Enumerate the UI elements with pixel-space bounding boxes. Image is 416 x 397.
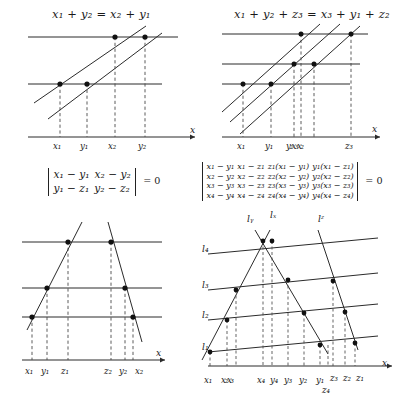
top-left-x-axis-label: x (190, 125, 195, 135)
intersection-dot (318, 343, 323, 348)
tick-label: x₄ (257, 376, 265, 385)
line-label-lx: lₓ (270, 210, 276, 220)
intersection-dot (29, 314, 34, 319)
intersection-dot (57, 81, 62, 86)
tick-label-overlapping-cluster: y₂x₃x₂ (286, 142, 302, 151)
tick-label: y₃ (284, 376, 292, 385)
tick-label: x₁ (53, 142, 61, 151)
intersection-dot (130, 314, 135, 319)
bottom-left-diagram (0, 210, 208, 375)
determinant-cell: x₂ − y₂ (92, 168, 133, 182)
intersection-dot (122, 285, 127, 290)
determinant-2x2: x₁ − y₁ x₂ − y₂ y₁ − z₁ y₂ − z₂ = 0 (46, 168, 160, 196)
tick-label: y₂ (299, 376, 307, 385)
tick-label: z₄ (322, 386, 330, 395)
intersection-dot (225, 318, 230, 323)
line-label-lz: lᶻ (318, 214, 324, 224)
tick-label: z₂ (104, 367, 112, 376)
line-label-l1: l₁ (202, 342, 209, 352)
intersection-dot (299, 32, 304, 37)
intersection-dot (261, 239, 266, 244)
tick-label: z₃ (330, 374, 338, 383)
slanted-line-l2 (208, 304, 378, 320)
figure-canvas: x₁ + y₂ = x₂ + y₁ (0, 0, 416, 397)
tick-label: y₂ (138, 142, 146, 151)
top-left-tick-labels: x₁ y₁ x₂ y₂ (0, 142, 208, 156)
x-axis-arrow (186, 135, 195, 140)
tick-label: x₁ (25, 367, 33, 376)
intersection-dot (312, 62, 317, 67)
bottom-left-x-axis-label: x (156, 348, 161, 358)
dropline-group (60, 37, 145, 137)
tick-label: z₁ (61, 367, 69, 376)
determinant-right-bar (357, 162, 358, 201)
intersection-dot (142, 34, 147, 39)
intersection-dot (302, 311, 307, 316)
top-right-equation-title: x₁ + y₂ + z₃ = x₃ + y₁ + z₂ (234, 8, 390, 21)
intersection-dot (234, 288, 239, 293)
x-axis-arrow (370, 135, 380, 140)
intersection-dot (269, 82, 274, 87)
determinant-left-bar (202, 162, 203, 201)
intersection-dot (343, 310, 348, 315)
transversal-line-2 (230, 24, 340, 122)
intersection-dot (270, 239, 275, 244)
transversal-line-lx (255, 230, 328, 354)
intersection-dot (353, 341, 358, 346)
tick-label: y₁ (265, 142, 273, 151)
tick-label: z₃ (345, 142, 353, 151)
intersection-dot (292, 62, 297, 67)
tick-label: x₂ (108, 142, 116, 151)
intersection-dot-group (208, 239, 358, 355)
tick-label: y₄ (270, 376, 278, 385)
determinant-row: x₁ − y₁ x₂ − y₂ (51, 168, 133, 182)
tick-label: x₂x₃ (221, 376, 233, 385)
intersection-dot (349, 32, 354, 37)
bottom-right-diagram (200, 208, 416, 373)
slanted-line-l4 (208, 238, 378, 254)
determinant-4x4-rhs: = 0 (363, 176, 382, 187)
line-label-ly: lᵧ (247, 214, 253, 224)
determinant-cell: x₁ − y₁ (51, 168, 92, 182)
panel-top-right: x₁ + y₂ + z₃ = x₃ + y₁ + z₂ (208, 0, 416, 158)
intersection-dot-group (57, 34, 147, 86)
tick-label: z₂ (343, 374, 351, 383)
slanted-line-l1 (208, 336, 378, 352)
tick-label: x₂ (135, 367, 143, 376)
intersection-dot (331, 279, 336, 284)
dropline-group (32, 242, 133, 360)
intersection-dot (112, 34, 117, 39)
intersection-dot (286, 278, 291, 283)
line-label-l3: l₃ (202, 280, 209, 290)
top-left-equation-title: x₁ + y₂ = x₂ + y₁ (52, 8, 151, 21)
determinant-4x4-body: x₁ − y₁ x₁ − z₁ z₁(x₁ − y₁) y₁(x₁ − z₁) … (200, 162, 360, 201)
tick-label: y₁ (80, 142, 88, 151)
determinant-right-bar (135, 168, 136, 196)
determinant-row: y₁ − z₁ y₂ − z₂ (51, 182, 133, 196)
bottom-left-tick-labels: x₁ y₁ z₁ z₂ y₂ x₂ (0, 367, 208, 381)
intersection-dot (44, 285, 49, 290)
line-label-l2: l₂ (202, 310, 209, 320)
determinant-cell: y₂ − z₂ (92, 182, 133, 196)
top-left-diagram (0, 22, 208, 152)
tick-label: x₁ (237, 142, 245, 151)
determinant-left-bar (48, 168, 49, 196)
intersection-dot (108, 239, 113, 244)
intersection-dot (84, 81, 89, 86)
panel-top-left: x₁ + y₂ = x₂ + y₁ (0, 0, 208, 158)
determinant-cell: y₁ − z₁ (51, 182, 92, 196)
intersection-dot-group (29, 239, 135, 319)
top-right-x-axis-label: x (372, 124, 377, 134)
intersection-dot (241, 82, 246, 87)
tick-label: y₁ (41, 367, 49, 376)
transversal-ascending (27, 222, 82, 330)
determinant-2x2-body: x₁ − y₁ x₂ − y₂ y₁ − z₁ y₂ − z₂ (46, 168, 138, 196)
intersection-dot-group (241, 32, 354, 87)
transversal-line-1 (34, 26, 146, 103)
panel-bottom-right: l₄ l₃ l₂ l₁ lᵧ lₓ lᶻ x x₁ x₂x₃ x₄ y₄ y₃ … (200, 200, 416, 397)
x-axis-arrow (155, 358, 165, 363)
tick-label: z₁ (356, 374, 364, 383)
intersection-dot (65, 239, 70, 244)
tick-label: x₁ (204, 376, 212, 385)
slanted-line-l3 (208, 273, 378, 290)
